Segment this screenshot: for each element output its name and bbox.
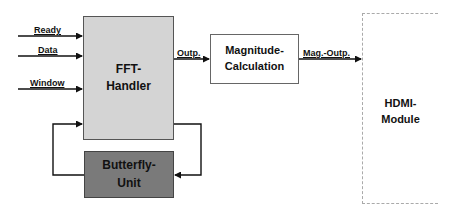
butterfly-to-fft-loop-arrow [53,124,84,175]
hdmi-module-title-line2: Module [381,112,420,128]
magnitude-calculation-title-line1: Magnitude- [225,43,284,59]
butterfly-unit-block: Butterfly- Unit [84,151,174,198]
butterfly-unit-title-line1: Butterfly- [102,157,155,174]
data-signal-label: Data [38,45,58,55]
ready-signal-label: Ready [34,25,61,35]
fft-to-butterfly-loop-arrow [174,124,201,175]
fft-handler-title-line2: Handler [106,78,151,95]
hdmi-module-title-line1: HDMI- [381,96,420,112]
fft-output-label: Outp. [177,48,201,58]
fft-handler-title-line1: FFT- [106,61,151,78]
window-signal-label: Window [30,78,64,88]
magnitude-calculation-block: Magnitude- Calculation [210,34,299,84]
magnitude-output-label: Mag.-Outp. [303,48,350,58]
hdmi-module-block: HDMI- Module [362,13,438,204]
magnitude-calculation-title-line2: Calculation [225,59,284,75]
fft-handler-block: FFT- Handler [83,16,174,140]
butterfly-unit-title-line2: Unit [102,175,155,192]
